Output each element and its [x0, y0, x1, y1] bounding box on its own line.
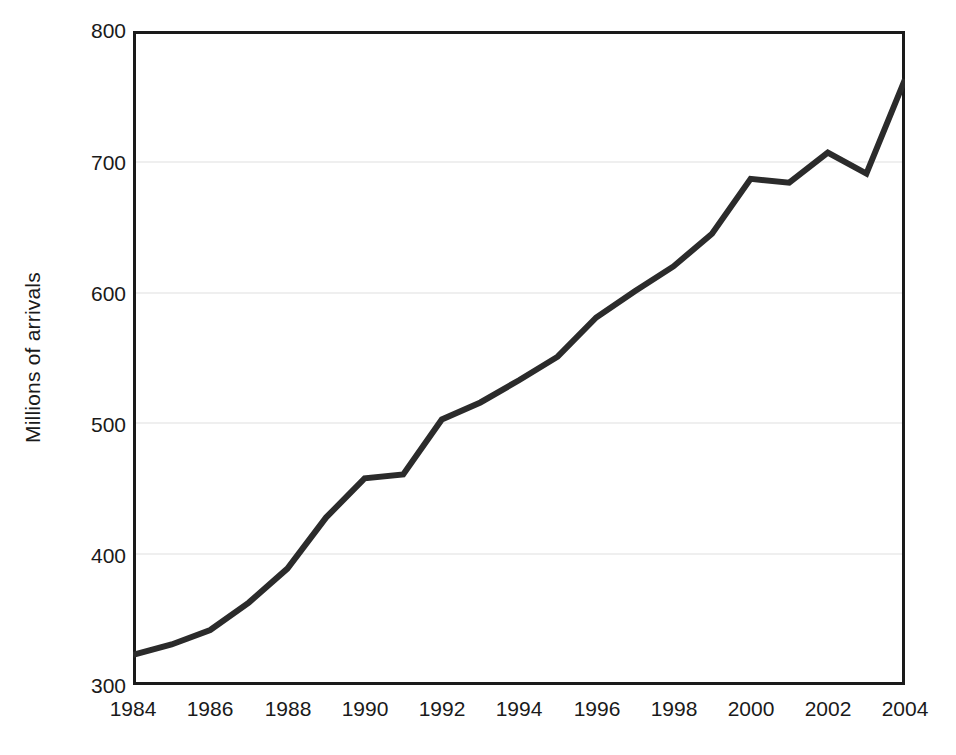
y-tick-label: 400: [52, 545, 126, 566]
x-tick-label: 1986: [165, 697, 255, 721]
y-tick-label: 500: [52, 414, 126, 435]
plot-area: [133, 31, 905, 685]
y-tick-label: 600: [52, 283, 126, 304]
y-axis-tick-labels: 800 700 600 500 400 300: [46, 0, 126, 755]
gridlines: [133, 162, 905, 554]
axis-frame: [133, 31, 905, 685]
y-tick-label: 700: [52, 152, 126, 173]
x-tick-label: 2004: [860, 697, 950, 721]
y-tick-label: 800: [52, 20, 126, 41]
y-tick-label: 300: [52, 675, 126, 696]
x-tick-label: 1994: [474, 697, 564, 721]
plot-svg: [133, 31, 905, 685]
data-series-line: [133, 79, 905, 655]
line-chart: Millions of arrivals 800 700 600 500 400…: [0, 0, 956, 755]
x-axis-tick-labels: 1984 1986 1988 1990 1992 1994 1996 1998 …: [0, 697, 956, 737]
